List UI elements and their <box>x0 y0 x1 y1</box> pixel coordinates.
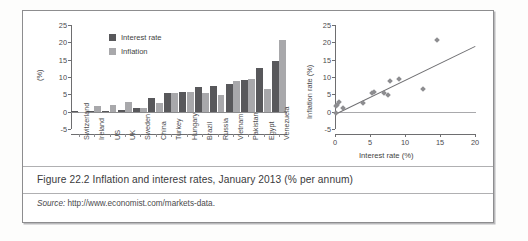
y-tick-label: 15 <box>45 56 67 65</box>
x-tick-label: 10 <box>395 138 415 147</box>
scatter-x-axis-label: Interest rate (%) <box>359 151 413 160</box>
bar-interest-rate <box>272 61 279 112</box>
y-tick <box>68 129 71 130</box>
x-tick <box>171 134 172 137</box>
category-label: Hungary <box>190 113 199 140</box>
category-label: Venezuela <box>282 106 291 140</box>
legend-swatch-inflation <box>109 48 116 55</box>
category-label: Sweden <box>143 114 152 140</box>
x-tick <box>140 134 141 137</box>
x-tick <box>440 134 441 137</box>
bar-interest-rate <box>210 86 217 112</box>
y-tick <box>332 129 335 130</box>
figure-caption: Figure 22.2 Inflation and interest rates… <box>37 174 353 185</box>
bar-inflation <box>171 93 178 112</box>
x-tick <box>233 134 234 137</box>
y-tick-label: 15 <box>309 56 331 65</box>
x-tick-label: 15 <box>430 138 450 147</box>
bar-chart-category-labels: SwitzerlandIrelandUSUKSwedenChinaTurkeyH… <box>71 138 287 178</box>
bar-chart-y-axis-label: (%) <box>35 70 44 82</box>
x-tick <box>218 134 219 137</box>
x-tick <box>405 134 406 137</box>
bar-interest-rate <box>179 92 186 111</box>
bar-inflation <box>110 105 117 111</box>
y-tick-label: -5 <box>45 125 67 134</box>
x-tick <box>248 134 249 137</box>
bar-inflation <box>140 108 147 112</box>
y-tick-label: 20 <box>45 38 67 47</box>
x-tick <box>125 134 126 137</box>
x-tick <box>202 134 203 137</box>
x-tick <box>187 134 188 137</box>
x-tick <box>335 134 336 137</box>
bar-chart: (%) SwitzerlandIrelandUSUKSwedenChinaTur… <box>31 19 301 167</box>
legend-label-interest-rate: Interest rate <box>121 33 162 42</box>
y-tick-label: 5 <box>309 90 331 99</box>
y-tick-label: 25 <box>45 21 67 30</box>
source-url: http://www.economist.com/markets-data. <box>68 199 215 208</box>
figure-source: Source: http://www.economist.com/markets… <box>37 199 215 208</box>
figure-frame: (%) SwitzerlandIrelandUSUKSwedenChinaTur… <box>22 10 494 223</box>
y-tick-label: 20 <box>309 38 331 47</box>
y-tick-label: 0 <box>309 108 331 117</box>
scatter-points-area <box>335 25 475 129</box>
y-tick-label: 25 <box>309 21 331 30</box>
x-tick <box>475 134 476 137</box>
caption-divider-bottom <box>23 193 493 194</box>
x-tick-label: 20 <box>465 138 485 147</box>
legend-item-inflation: Inflation <box>109 47 162 56</box>
y-tick-label: 0 <box>45 108 67 117</box>
bar-interest-rate <box>133 108 140 112</box>
bar-interest-rate <box>148 98 155 112</box>
category-label: Russia <box>221 118 230 140</box>
y-tick-label: 10 <box>309 73 331 82</box>
x-tick-label: 0 <box>325 138 345 147</box>
x-tick <box>110 134 111 137</box>
category-label: Egypt <box>267 122 276 140</box>
bar-inflation <box>279 40 286 112</box>
bar-interest-rate <box>226 84 233 111</box>
bar-interest-rate <box>118 110 125 112</box>
category-label: China <box>159 121 168 140</box>
bar-interest-rate <box>164 93 171 111</box>
y-tick-label: -5 <box>309 125 331 134</box>
category-label: Turkey <box>174 118 183 140</box>
category-label: Pakistan <box>251 112 260 140</box>
bar-inflation <box>187 92 194 111</box>
bar-inflation <box>264 89 271 112</box>
category-label: UK <box>128 130 137 140</box>
category-label: Vietnam <box>236 114 245 140</box>
bar-inflation <box>94 106 101 112</box>
x-tick <box>370 134 371 137</box>
bar-inflation <box>156 103 163 112</box>
bar-group <box>210 25 225 129</box>
bar-inflation <box>248 79 255 112</box>
bar-inflation <box>218 95 225 112</box>
bar-inflation <box>202 93 209 112</box>
bar-chart-legend: Interest rate Inflation <box>109 33 162 61</box>
legend-item-interest-rate: Interest rate <box>109 33 162 42</box>
bar-group <box>164 25 179 129</box>
caption-divider-top <box>23 166 493 167</box>
scatter-chart: Inflation rate (%) Interest rate (%) -50… <box>299 19 491 167</box>
x-tick <box>79 134 80 137</box>
bar-inflation <box>233 81 240 112</box>
bar-interest-rate <box>195 87 202 111</box>
bar-interest-rate <box>241 80 248 112</box>
plots-area: (%) SwitzerlandIrelandUSUKSwedenChinaTur… <box>23 11 493 166</box>
y-tick-label: 10 <box>45 73 67 82</box>
bar-inflation <box>125 102 132 111</box>
category-label: US <box>113 130 122 140</box>
x-tick <box>94 134 95 137</box>
figure-page: (%) SwitzerlandIrelandUSUKSwedenChinaTur… <box>0 0 528 241</box>
x-tick-label: 5 <box>360 138 380 147</box>
x-tick <box>264 134 265 137</box>
legend-label-inflation: Inflation <box>121 47 148 56</box>
x-tick <box>279 134 280 137</box>
x-tick <box>156 134 157 137</box>
bar-interest-rate <box>256 68 263 111</box>
legend-swatch-interest-rate <box>109 34 116 41</box>
y-tick-label: 5 <box>45 90 67 99</box>
bar-interest-rate <box>102 111 109 112</box>
source-label: Source: <box>37 199 65 208</box>
